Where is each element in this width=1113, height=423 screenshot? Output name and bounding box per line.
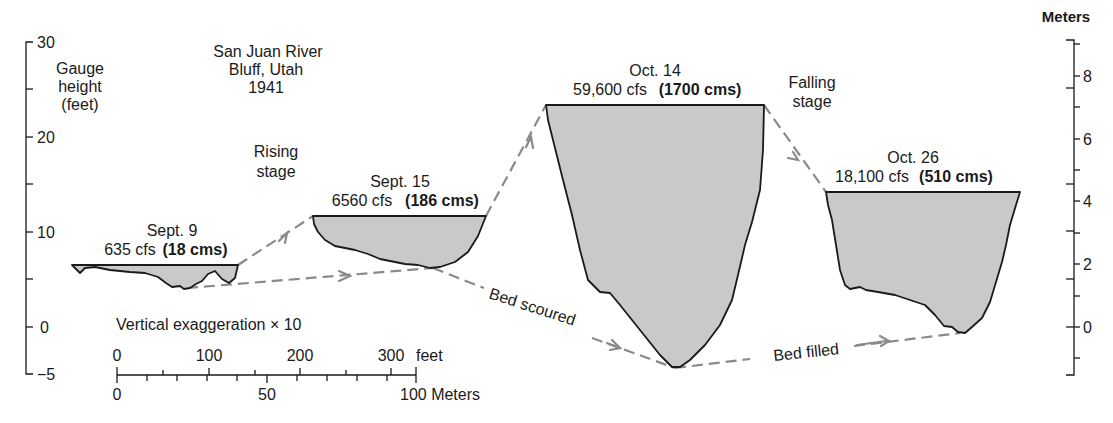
left-tick-neg5: −5	[37, 366, 55, 383]
section-flow-cms: (18 cms)	[163, 241, 228, 258]
bed-scoured-label: Bed scoured	[487, 285, 578, 329]
left-tick-0: 0	[40, 319, 49, 336]
river-cross-section-diagram: 30 20 10 0 −5 Gauge height (feet) Meters…	[0, 0, 1113, 423]
title-line-3: 1941	[248, 79, 284, 96]
meter-tick-0: 0	[113, 386, 122, 403]
scale-bar: Vertical exaggeration × 10 0 100 200 300…	[113, 316, 481, 403]
left-axis: 30 20 10 0 −5 Gauge height (feet)	[26, 34, 104, 383]
feet-tick-100: 100	[196, 347, 223, 364]
diagram-title: San Juan River Bluff, Utah 1941	[213, 43, 323, 96]
section-flow-cms: (186 cms)	[405, 192, 479, 209]
section-date: Oct. 26	[887, 149, 939, 166]
right-tick-0: 0	[1083, 319, 1092, 336]
right-axis: Meters 8 6 4 2 0	[1042, 8, 1092, 375]
title-line-1: San Juan River	[213, 43, 323, 60]
section-sept-9: Sept. 9 635 cfs (18 cms)	[72, 222, 238, 289]
section-oct-14: Oct. 14 59,600 cfs (1700 cms)	[546, 62, 764, 367]
left-tick-10: 10	[37, 224, 55, 241]
meter-tick-100: 100 Meters	[400, 386, 480, 403]
cross-section-shape	[826, 192, 1020, 333]
left-tick-20: 20	[37, 129, 55, 146]
section-oct-26: Oct. 26 18,100 cfs (510 cms)	[826, 149, 1020, 333]
arrow-icon	[788, 152, 798, 160]
meter-tick-50: 50	[258, 386, 276, 403]
cross-section-shape	[546, 105, 764, 367]
right-axis-line	[1066, 40, 1074, 375]
right-tick-2: 2	[1083, 256, 1092, 273]
falling-stage-label-2: stage	[792, 93, 831, 110]
section-date: Sept. 15	[370, 173, 430, 190]
feet-tick-200: 200	[287, 347, 314, 364]
left-axis-label-1: Gauge	[56, 60, 104, 77]
right-tick-8: 8	[1083, 68, 1092, 85]
section-flow-cfs: 635 cfs	[104, 241, 156, 258]
cross-section-shape	[313, 216, 486, 268]
rising-stage-label-2: stage	[256, 163, 295, 180]
section-date: Sept. 9	[147, 222, 198, 239]
left-axis-label-2: height	[58, 78, 102, 95]
section-sept-15: Sept. 15 6560 cfs (186 cms)	[313, 173, 486, 268]
right-tick-4: 4	[1083, 193, 1092, 210]
section-flow-cfs: 6560 cfs	[332, 192, 392, 209]
section-flow-cms: (510 cms)	[919, 168, 993, 185]
bed-filled-label: Bed filled	[773, 340, 840, 364]
section-date: Oct. 14	[629, 62, 681, 79]
feet-tick-300: 300	[378, 347, 405, 364]
left-axis-label-3: (feet)	[61, 96, 98, 113]
right-axis-label: Meters	[1042, 8, 1090, 25]
left-axis-line	[26, 42, 33, 374]
feet-unit: feet	[416, 347, 443, 364]
title-line-2: Bluff, Utah	[229, 61, 303, 78]
feet-tick-0: 0	[113, 347, 122, 364]
right-tick-6: 6	[1083, 131, 1092, 148]
section-flow-cfs: 59,600 cfs	[573, 81, 647, 98]
falling-stage-label-1: Falling	[788, 74, 835, 91]
vertical-exaggeration-label: Vertical exaggeration × 10	[116, 316, 302, 333]
section-flow-cfs: 18,100 cfs	[835, 168, 909, 185]
left-tick-30: 30	[37, 34, 55, 51]
section-flow-cms: (1700 cms)	[659, 81, 742, 98]
rising-stage-label-1: Rising	[254, 143, 298, 160]
